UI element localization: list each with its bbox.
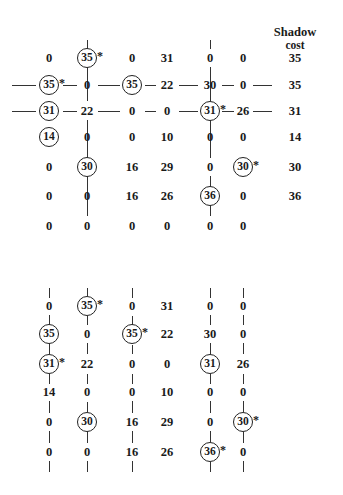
cell-value: 22	[161, 328, 174, 341]
cell-value: 0	[240, 52, 246, 65]
cell-value: 29	[161, 416, 174, 429]
cell: 0	[70, 381, 104, 403]
cell-value: 0	[84, 446, 90, 459]
cell-value: 16	[126, 416, 139, 429]
asterisk-marker: *	[97, 298, 103, 310]
cell: 0	[32, 441, 66, 463]
cell-value: 22	[161, 79, 174, 92]
cell-value: 0	[46, 300, 52, 313]
cell: 0	[70, 126, 104, 148]
cell-value: 0	[129, 131, 135, 144]
asterisk-marker: *	[220, 103, 226, 115]
cell: 16	[115, 156, 149, 178]
cell-value: 30	[77, 157, 97, 177]
cell-value: 14	[289, 131, 302, 144]
cell-value: 10	[161, 131, 174, 144]
cell-value: 0	[129, 386, 135, 399]
cell-value: 0	[240, 190, 246, 203]
shadow-cost-value: 36	[278, 185, 312, 207]
cell-value: 0	[207, 161, 213, 174]
cell: 0	[226, 323, 260, 345]
circled-cell: 31	[32, 100, 66, 122]
cell-value: 0	[207, 131, 213, 144]
cell-value: 0	[46, 52, 52, 65]
cell-value: 0	[84, 190, 90, 203]
cell-value: 26	[161, 446, 174, 459]
cell-value: 31	[289, 105, 302, 118]
cell: 0	[115, 100, 149, 122]
cell: 0	[115, 47, 149, 69]
cell-value: 0	[164, 358, 170, 371]
cell-value: 35	[289, 52, 302, 65]
asterisk-marker: *	[253, 414, 259, 426]
cell: 16	[115, 441, 149, 463]
cell-value: 0	[46, 190, 52, 203]
cell: 0	[70, 74, 104, 96]
cell: 0	[193, 411, 227, 433]
cell: 26	[226, 100, 260, 122]
cell: 0	[193, 156, 227, 178]
cell-value: 35	[77, 296, 97, 316]
cell-value: 0	[240, 220, 246, 233]
cell: 10	[150, 381, 184, 403]
cell: 0	[70, 323, 104, 345]
cell: 31	[150, 295, 184, 317]
cell-value: 36	[200, 186, 220, 206]
cell-value: 0	[240, 446, 246, 459]
asterisk-marker: *	[142, 326, 148, 338]
cell: 0	[115, 381, 149, 403]
cell: 31	[150, 47, 184, 69]
circled-cell: 30	[70, 411, 104, 433]
cell-value: 30	[289, 161, 302, 174]
shadow-cost-value: 35	[278, 74, 312, 96]
cell: 0	[193, 215, 227, 237]
cell: 0	[150, 353, 184, 375]
shadow-cost-value: 14	[278, 126, 312, 148]
cell: 0	[193, 295, 227, 317]
cell-value: 14	[39, 127, 59, 147]
cell: 0	[32, 411, 66, 433]
cell-value: 0	[84, 79, 90, 92]
cell-value: 14	[43, 386, 56, 399]
connector-vertical-line	[210, 462, 211, 472]
cell-value: 29	[161, 161, 174, 174]
cell-value: 31	[161, 300, 174, 313]
cell: 0	[226, 441, 260, 463]
cell: 0	[32, 185, 66, 207]
cell: 22	[70, 100, 104, 122]
shadow-cost-value: 35	[278, 47, 312, 69]
cell: 22	[150, 74, 184, 96]
cell: 0	[226, 215, 260, 237]
cell-value: 35	[122, 75, 142, 95]
cell: 0	[115, 295, 149, 317]
cell: 16	[115, 185, 149, 207]
cell-value: 0	[129, 220, 135, 233]
cell-value: 26	[161, 190, 174, 203]
cell-value: 0	[84, 131, 90, 144]
cell-value: 31	[200, 101, 220, 121]
cell-value: 0	[207, 300, 213, 313]
cell: 0	[226, 74, 260, 96]
cell-value: 30	[233, 157, 253, 177]
cell-value: 31	[39, 354, 59, 374]
cell-value: 30	[204, 328, 217, 341]
cell-value: 36	[200, 442, 220, 462]
cell-value: 0	[207, 220, 213, 233]
cell: 16	[115, 411, 149, 433]
cell-value: 0	[207, 416, 213, 429]
cell: 0	[226, 47, 260, 69]
cell-value: 0	[129, 300, 135, 313]
cell-value: 36	[289, 190, 302, 203]
cell-value: 30	[204, 79, 217, 92]
shadow-cost-value: 31	[278, 100, 312, 122]
cell: 26	[150, 185, 184, 207]
asterisk-marker: *	[253, 159, 259, 171]
cell-value: 0	[240, 386, 246, 399]
cell: 0	[150, 100, 184, 122]
cell: 0	[70, 215, 104, 237]
cell-value: 0	[46, 220, 52, 233]
cell: 0	[70, 441, 104, 463]
shadow-cost-header-line1: Shadow	[255, 26, 335, 39]
cell: 0	[32, 215, 66, 237]
cell: 22	[150, 323, 184, 345]
